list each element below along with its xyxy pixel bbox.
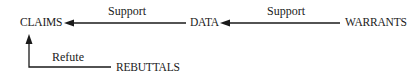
edge-label-refute: Refute	[52, 51, 84, 63]
diagram-edges	[0, 0, 420, 80]
argument-diagram: CLAIMS DATA WARRANTS REBUTTALS Support S…	[0, 0, 420, 80]
node-warrants: WARRANTS	[345, 17, 407, 29]
node-rebuttals: REBUTTALS	[116, 62, 180, 74]
edge-label-support-1: Support	[108, 5, 146, 17]
edge-label-support-2: Support	[267, 5, 305, 17]
arrowhead-left-icon	[64, 20, 74, 27]
edge-data-to-claims	[64, 20, 186, 27]
edge-warrants-to-data	[220, 20, 340, 27]
arrowhead-left-icon	[220, 20, 230, 27]
node-data: DATA	[190, 17, 219, 29]
arrowhead-up-icon	[26, 34, 33, 44]
node-claims: CLAIMS	[20, 17, 62, 29]
